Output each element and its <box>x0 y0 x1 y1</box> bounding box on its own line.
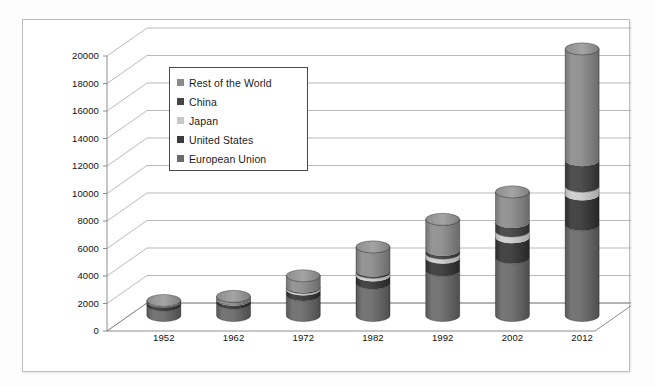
legend-item-label: Japan <box>189 115 218 127</box>
chart-svg <box>23 20 631 373</box>
legend-swatch-icon <box>177 98 184 105</box>
cylinder-top-cap <box>217 290 251 302</box>
cylinder-top-cap <box>426 213 460 225</box>
x-axis-tick-label: 1982 <box>350 332 396 343</box>
legend-item-united-states[interactable]: United States <box>177 130 301 149</box>
y-axis-tick-label: 14000 <box>49 133 99 144</box>
stacked-cylinder <box>565 43 599 322</box>
legend-item-label: China <box>189 96 217 108</box>
cylinder-segment <box>565 49 599 166</box>
legend-swatch-icon <box>177 136 184 143</box>
cylinder-top-cap <box>286 270 320 282</box>
legend-swatch-icon <box>177 79 184 86</box>
stacked-cylinder <box>147 294 181 321</box>
cylinder-top-cap <box>356 241 390 253</box>
x-axis-tick-label: 1992 <box>420 332 466 343</box>
cylinder-segment <box>565 225 599 322</box>
legend-item-label: Rest of the World <box>189 77 272 89</box>
stacked-cylinder <box>495 186 529 322</box>
x-axis-tick-label: 1962 <box>211 332 257 343</box>
x-axis-tick-label: 2012 <box>559 332 605 343</box>
y-axis-tick-label: 6000 <box>49 243 99 254</box>
cylinder-top-cap <box>495 186 529 198</box>
x-axis-tick-label: 1972 <box>280 332 326 343</box>
stacked-cylinder <box>356 241 390 322</box>
cylinder-top-cap <box>565 43 599 55</box>
legend-item-label: United States <box>189 134 253 146</box>
legend-item-japan[interactable]: Japan <box>177 111 301 130</box>
y-axis-tick-label: 16000 <box>49 105 99 116</box>
y-axis-tick-label: 2000 <box>49 298 99 309</box>
y-axis-tick-label: 10000 <box>49 188 99 199</box>
y-axis-tick-label: 8000 <box>49 215 99 226</box>
stacked-cylinder <box>217 290 251 321</box>
legend-swatch-icon <box>177 117 184 124</box>
legend-swatch-icon <box>177 155 184 162</box>
y-axis-tick-label: 18000 <box>49 78 99 89</box>
y-axis-tick-label: 20000 <box>49 50 99 61</box>
chart-frame: 0200040006000800010000120001400016000180… <box>22 19 630 372</box>
y-axis-tick-label: 0 <box>49 325 99 336</box>
legend-item-china[interactable]: China <box>177 92 301 111</box>
legend-item-rest-of-the-world[interactable]: Rest of the World <box>177 73 301 92</box>
stacked-cylinder <box>286 270 320 322</box>
y-axis-tick-label: 12000 <box>49 160 99 171</box>
chart-legend: Rest of the WorldChinaJapanUnited States… <box>169 67 308 171</box>
x-axis-tick-label: 1952 <box>141 332 187 343</box>
chart-plot-area <box>23 20 631 373</box>
y-axis-tick-label: 4000 <box>49 270 99 281</box>
legend-item-european-union[interactable]: European Union <box>177 149 301 168</box>
stacked-cylinder <box>426 213 460 321</box>
scanned-page: 0200040006000800010000120001400016000180… <box>0 0 655 386</box>
x-axis-tick-label: 2002 <box>489 332 535 343</box>
cylinder-segment <box>495 258 529 322</box>
cylinder-top-cap <box>147 294 181 306</box>
cylinder-segment <box>426 270 460 321</box>
legend-item-label: European Union <box>189 153 266 165</box>
